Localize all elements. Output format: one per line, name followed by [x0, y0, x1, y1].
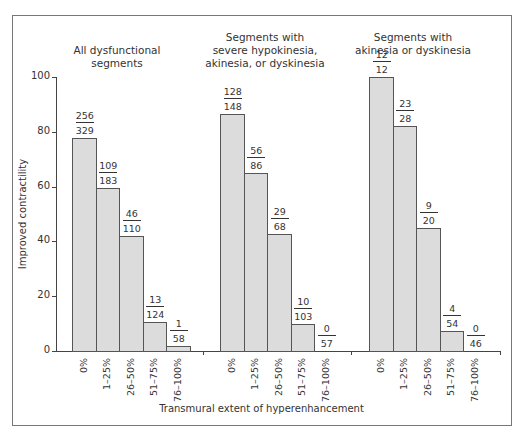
x-group-tick	[203, 351, 204, 355]
group-title: Segments withsevere hypokinesia,akinesia…	[185, 31, 345, 70]
fraction-label: 2968	[265, 206, 295, 232]
y-axis	[56, 77, 57, 351]
y-tick	[52, 132, 56, 133]
fraction-label: 46110	[117, 208, 147, 234]
fraction-label: 128148	[218, 86, 248, 112]
fraction-label: 2328	[390, 98, 420, 124]
bar	[166, 346, 191, 352]
x-axis-title: Transmural extent of hyperenhancement	[0, 403, 523, 414]
y-tick-label: 20	[20, 289, 50, 300]
bar	[416, 228, 441, 352]
x-group-tick	[500, 351, 501, 355]
y-tick	[52, 77, 56, 78]
y-tick-label: 60	[20, 180, 50, 191]
fraction-label: 109183	[93, 160, 123, 186]
fraction-label: 057	[312, 323, 342, 349]
fraction-label: 5686	[241, 145, 271, 171]
fraction-label: 256329	[70, 110, 100, 136]
y-axis-title: Improved contractility	[17, 159, 28, 269]
fraction-label: 920	[414, 200, 444, 226]
fraction-label: 10103	[288, 296, 318, 322]
y-tick	[52, 351, 56, 352]
y-tick-label: 100	[20, 70, 50, 81]
y-tick	[52, 187, 56, 188]
y-tick	[52, 296, 56, 297]
bar	[244, 173, 269, 352]
y-tick-label: 40	[20, 234, 50, 245]
fraction-label: 046	[461, 323, 491, 349]
y-tick	[52, 241, 56, 242]
group-title: All dysfunctionalsegments	[37, 44, 197, 70]
fraction-label: 13124	[140, 294, 170, 320]
y-tick-label: 0	[20, 344, 50, 355]
bar	[267, 234, 292, 352]
fraction-label: 158	[164, 318, 194, 344]
group-title: Segments withakinesia or dyskinesia	[333, 31, 493, 57]
fraction-label: 1212	[367, 49, 397, 75]
y-tick-label: 80	[20, 125, 50, 136]
bar	[393, 126, 418, 352]
x-group-tick	[351, 351, 352, 355]
